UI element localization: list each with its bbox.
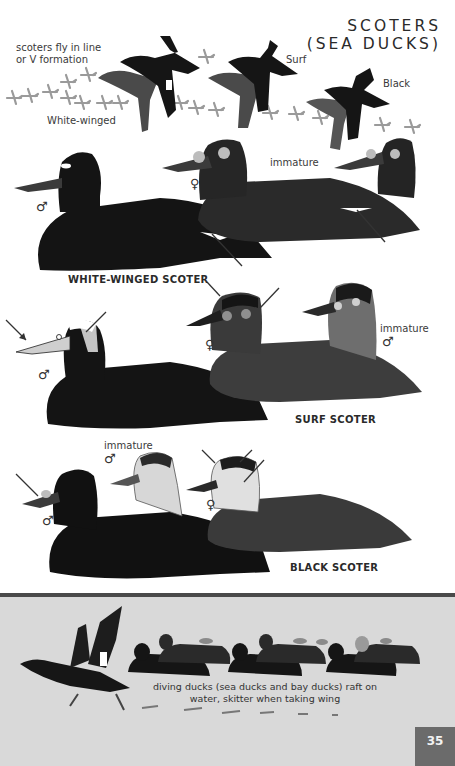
behavior-caption-line-1: diving ducks (sea ducks and bay ducks) r… <box>145 681 385 693</box>
behavior-caption: diving ducks (sea ducks and bay ducks) r… <box>145 681 385 705</box>
behavior-illustration-layer <box>0 0 455 766</box>
page-number-tab: 35 <box>415 727 455 766</box>
field-guide-page: SCOTERS (SEA DUCKS) scoters fly in line … <box>0 0 455 766</box>
behavior-caption-line-2: water, skitter when taking wing <box>145 693 385 705</box>
skittering-scoter-illustration <box>20 606 130 710</box>
rafting-scoters-illustration <box>128 634 420 676</box>
splash-trail-icon <box>142 706 338 715</box>
